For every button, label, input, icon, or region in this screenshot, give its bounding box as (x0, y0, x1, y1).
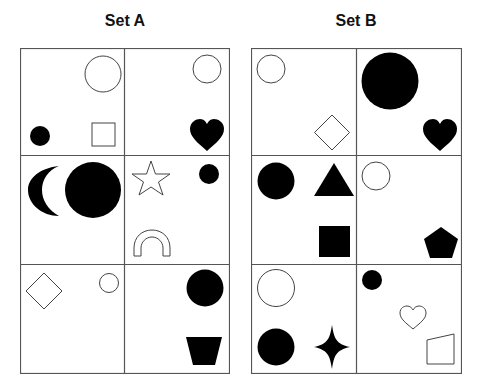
filled-square-icon (319, 226, 350, 257)
outline-diamond-icon (315, 115, 350, 150)
filled-heart-icon (423, 119, 457, 151)
filled-circle-icon (258, 163, 295, 200)
filled-circle-icon (362, 270, 382, 290)
filled-circle-icon (187, 270, 224, 307)
outline-arch-icon (134, 230, 170, 256)
set-b-title: Set B (251, 12, 461, 30)
set-a-cell-2-1 (28, 162, 121, 218)
outline-circle-icon (257, 55, 285, 83)
set-b-panel (251, 48, 462, 374)
outline-quadrilateral-icon (427, 334, 454, 364)
filled-circle-icon (362, 53, 419, 110)
outline-square-icon (92, 123, 115, 146)
filled-heart-icon (190, 119, 224, 151)
outline-circle-icon (362, 162, 390, 190)
outline-heart-icon (400, 306, 426, 329)
set-b-cell-1-1 (257, 55, 350, 150)
four-point-star-icon (314, 325, 350, 369)
set-b-cell-2-1 (258, 163, 355, 258)
set-b-cell-1-2 (362, 53, 458, 152)
outline-circle-icon (193, 55, 221, 83)
filled-pentagon-icon (424, 227, 458, 258)
filled-triangle-icon (314, 163, 354, 196)
set-a-cell-2-2 (132, 161, 219, 256)
crescent-moon-icon (28, 166, 59, 216)
set-a-cell-3-1 (26, 273, 119, 309)
set-b-cell-3-2 (362, 270, 454, 364)
filled-circle-icon (65, 162, 121, 218)
outline-circle-icon (100, 274, 119, 293)
set-a-cell-1-2 (190, 55, 224, 151)
set-a-cell-3-2 (186, 270, 224, 366)
set-b-grid (251, 48, 462, 374)
set-a-title: Set A (20, 12, 230, 30)
filled-trapezoid-icon (186, 337, 222, 365)
filled-circle-icon (258, 329, 295, 366)
set-a-panel (20, 48, 230, 374)
filled-circle-icon (30, 126, 50, 146)
outline-circle-icon (85, 56, 121, 92)
outline-star-icon (132, 161, 170, 195)
set-b-cell-3-1 (258, 270, 351, 370)
set-b-cell-2-2 (362, 162, 458, 258)
outline-circle-icon (258, 270, 295, 307)
outline-diamond-icon (26, 273, 62, 309)
set-a-cell-1-1 (30, 56, 121, 146)
filled-circle-icon (199, 164, 219, 184)
